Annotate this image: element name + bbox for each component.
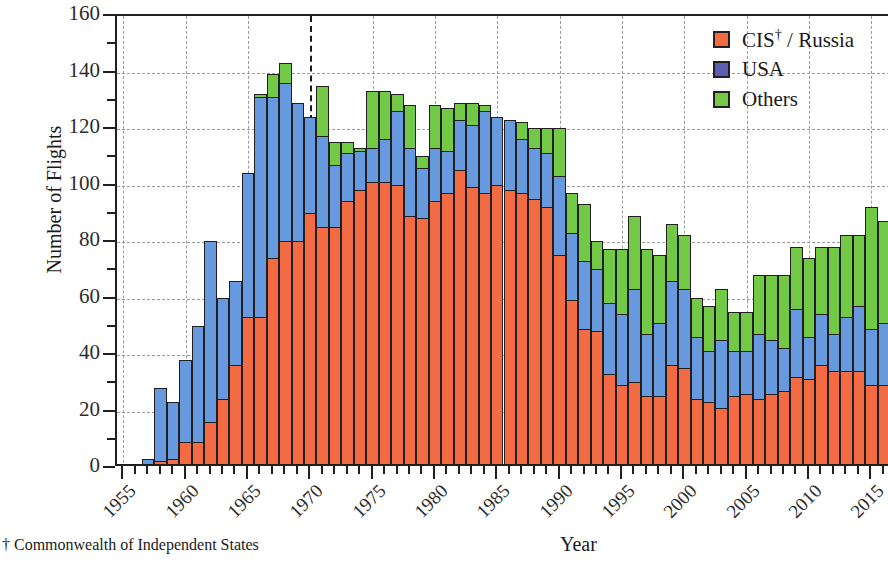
bar-segment-usa	[678, 289, 690, 369]
bar-column	[541, 129, 553, 466]
bar-segment-cis	[391, 185, 403, 467]
y-tick-label: 60	[44, 286, 100, 307]
bar-segment-cis	[715, 408, 727, 466]
bar-column	[603, 250, 615, 466]
bar-segment-cis	[504, 190, 516, 466]
bar-segment-usa	[628, 289, 640, 383]
bar-segment-cis	[828, 371, 840, 466]
bar-segment-usa	[840, 317, 852, 372]
bar-segment-others	[703, 306, 715, 352]
bar-segment-usa	[429, 148, 441, 203]
bar-segment-usa	[229, 281, 241, 367]
bar-segment-cis	[840, 371, 852, 466]
bar-column	[853, 236, 865, 466]
bar-column	[753, 276, 765, 466]
bar-column	[553, 129, 565, 466]
bar-segment-others	[466, 103, 478, 127]
bar-segment-cis	[354, 190, 366, 466]
bar-segment-cis	[267, 258, 279, 466]
bar-segment-usa	[603, 303, 615, 375]
legend-swatch-usa	[713, 61, 730, 78]
bar-segment-usa	[416, 168, 428, 220]
bar-segment-others	[578, 204, 590, 262]
bar-column	[728, 313, 740, 466]
bar-column	[404, 106, 416, 466]
bar-column	[628, 217, 640, 466]
y-tick-label: 40	[44, 342, 100, 363]
legend-swatch-cis	[713, 31, 730, 48]
bar-column	[653, 256, 665, 466]
bar-segment-usa	[354, 151, 366, 192]
bar-segment-cis	[703, 402, 715, 466]
bar-segment-cis	[304, 213, 316, 466]
bar-segment-usa	[379, 139, 391, 182]
legend: CIS† / RussiaUSAOthers	[713, 24, 888, 114]
bar-segment-cis	[479, 193, 491, 466]
x-tick-label: 2010	[780, 480, 827, 527]
bar-segment-usa	[728, 351, 740, 397]
bar-segment-usa	[853, 306, 865, 372]
bar-segment-cis	[628, 382, 640, 466]
bar-segment-others	[553, 128, 565, 177]
bar-segment-others	[329, 142, 341, 166]
x-tick-label: 1970	[281, 480, 328, 527]
bar-segment-others	[528, 128, 540, 149]
bar-segment-cis	[678, 368, 690, 466]
bar-segment-others	[778, 275, 790, 349]
bar-segment-others	[828, 247, 840, 336]
bar-segment-usa	[292, 103, 304, 242]
bar-segment-others	[678, 235, 690, 290]
bar-segment-cis	[242, 317, 254, 466]
bar-segment-cis	[516, 193, 528, 466]
bar-column	[641, 250, 653, 466]
bar-segment-cis	[865, 385, 877, 466]
bar-segment-cis	[179, 442, 191, 466]
y-tick-label: 100	[44, 173, 100, 194]
bar-column	[678, 236, 690, 466]
bar-segment-others	[803, 258, 815, 338]
bar-segment-usa	[616, 314, 628, 386]
bar-segment-others	[765, 275, 777, 341]
bar-segment-cis	[279, 241, 291, 466]
bar-segment-cis	[416, 218, 428, 466]
y-tick-mark-minor	[107, 325, 115, 327]
bar-segment-usa	[553, 176, 565, 256]
y-tick-mark	[103, 184, 115, 186]
bar-segment-usa	[466, 125, 478, 188]
bar-segment-usa	[167, 402, 179, 460]
bar-column	[715, 290, 727, 466]
x-tick-label: 2005	[717, 480, 764, 527]
bar-segment-cis	[778, 391, 790, 466]
legend-item-usa: USA	[713, 54, 888, 84]
bar-segment-cis	[441, 193, 453, 466]
bar-segment-usa	[441, 151, 453, 194]
y-tick-mark	[103, 14, 115, 16]
bar-segment-others	[878, 221, 888, 324]
bar-segment-others	[454, 103, 466, 121]
bar-segment-cis	[217, 399, 229, 466]
bar-segment-usa	[254, 97, 266, 318]
y-tick-mark-minor	[107, 212, 115, 214]
bar-segment-cis	[666, 365, 678, 466]
bar-segment-others	[641, 249, 653, 335]
bar-segment-others	[790, 247, 802, 310]
legend-label-others: Others	[742, 87, 798, 112]
bar-column	[366, 92, 378, 466]
y-tick-mark-minor	[107, 381, 115, 383]
bar-column	[591, 242, 603, 466]
legend-item-cis: CIS† / Russia	[713, 24, 888, 54]
bar-segment-others	[740, 312, 752, 353]
y-tick-label: 160	[44, 3, 100, 24]
bar-segment-usa	[566, 233, 578, 302]
bar-column	[666, 225, 678, 466]
x-axis-title: Year	[560, 533, 597, 556]
y-tick-mark-minor	[107, 42, 115, 44]
bar-segment-others	[616, 249, 628, 315]
flights-per-year-bar-chart: Number of Flights 020406080100120140160 …	[0, 0, 888, 573]
bar-column	[316, 87, 328, 466]
bar-segment-others	[254, 94, 266, 98]
bar-column	[416, 157, 428, 466]
bar-segment-usa	[815, 314, 827, 366]
bar-column	[466, 104, 478, 466]
bar-column	[429, 106, 441, 466]
